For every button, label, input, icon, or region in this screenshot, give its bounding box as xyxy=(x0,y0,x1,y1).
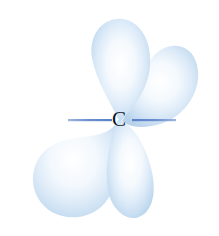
orbital-diagram-figure: C xyxy=(0,0,219,236)
lobe-lower-right xyxy=(107,120,154,218)
orbital-diagram-canvas xyxy=(0,0,219,236)
atom-label-carbon: C xyxy=(112,109,126,130)
bond-line-right-segment xyxy=(132,119,176,121)
bond-line-left-segment xyxy=(68,119,112,121)
